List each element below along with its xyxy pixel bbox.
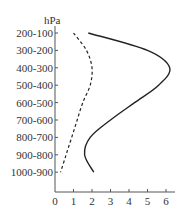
y-tick-label: 1000-900	[11, 166, 54, 178]
y-tick-label: 500-400	[16, 79, 53, 91]
y-tick-label: 800-700	[16, 131, 53, 143]
x-tick-label: 6	[163, 195, 169, 207]
x-tick-label: 2	[89, 195, 95, 207]
y-axis-unit-label: hPa	[44, 14, 61, 26]
series-group	[61, 33, 170, 172]
series-line-solid	[84, 33, 169, 172]
y-tick-label: 400-300	[16, 62, 53, 74]
y-tick-label: 200-100	[16, 27, 53, 39]
x-tick-label: 3	[108, 195, 114, 207]
y-tick-label: 700-600	[16, 114, 53, 126]
x-tick-label: 1	[71, 195, 77, 207]
y-tick-label: 900-800	[16, 149, 53, 161]
y-tick-label: 600-500	[16, 97, 53, 109]
series-line-dashed	[61, 33, 93, 172]
x-axis: 0123456	[52, 189, 175, 207]
y-tick-label: 300-200	[16, 44, 53, 56]
pressure-profile-chart: hPa 200-100300-200400-300500-400600-5007…	[0, 0, 186, 211]
y-axis: 200-100300-200400-300500-400600-500700-6…	[11, 26, 58, 192]
x-tick-label: 5	[145, 195, 151, 207]
x-tick-label: 0	[52, 195, 58, 207]
x-tick-label: 4	[126, 195, 132, 207]
